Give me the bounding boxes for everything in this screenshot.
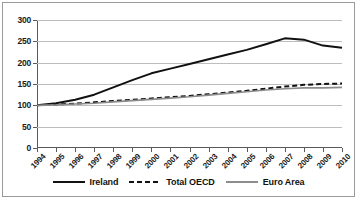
x-tick-mark (304, 148, 305, 152)
x-tick-mark (151, 148, 152, 152)
gridline (37, 84, 342, 85)
x-tick-mark (323, 148, 324, 152)
x-tick-mark (228, 148, 229, 152)
x-tick-mark (342, 148, 343, 152)
x-tick-mark (94, 148, 95, 152)
x-tick-mark (75, 148, 76, 152)
legend-label: Total OECD (166, 177, 214, 187)
legend-swatch-dashed-line-icon (129, 178, 161, 186)
x-axis-tick-label: 2010 (334, 152, 352, 170)
y-axis-tick-label: 250 (17, 36, 31, 46)
legend-swatch-solid-line-icon (53, 178, 85, 186)
x-tick-mark (132, 148, 133, 152)
chart-figure: 050100150200250300 199419951996199719981… (2, 2, 355, 197)
x-tick-mark (113, 148, 114, 152)
gridline (37, 63, 342, 64)
y-axis-tick-label: 300 (17, 15, 31, 25)
chart-legend: IrelandTotal OECDEuro Area (3, 177, 354, 187)
y-tick-mark (33, 20, 37, 21)
x-axis-tick-label: 1996 (67, 152, 85, 170)
legend-label: Ireland (90, 177, 119, 187)
legend-label: Euro Area (263, 177, 305, 187)
x-axis-tick-label: 1998 (105, 152, 123, 170)
x-axis-tick-label: 2009 (315, 152, 333, 170)
x-axis-tick-label: 2007 (277, 152, 295, 170)
x-axis-tick-label: 2002 (181, 152, 199, 170)
y-axis-tick-label: 200 (17, 58, 31, 68)
legend-item-ireland[interactable]: Ireland (53, 177, 119, 187)
x-axis-tick-label: 2001 (162, 152, 180, 170)
y-tick-mark (33, 84, 37, 85)
x-axis-tick-label: 2000 (143, 152, 161, 170)
y-tick-mark (33, 41, 37, 42)
x-tick-mark (37, 148, 38, 152)
x-tick-mark (56, 148, 57, 152)
x-tick-mark (247, 148, 248, 152)
y-axis-tick-label: 100 (17, 100, 31, 110)
x-axis-tick-label: 1995 (48, 152, 66, 170)
gridline (37, 105, 342, 106)
y-axis-tick-label: 0 (26, 143, 31, 153)
gridline (37, 20, 342, 21)
gridline (37, 41, 342, 42)
x-tick-mark (285, 148, 286, 152)
x-tick-mark (209, 148, 210, 152)
legend-swatch-solid-line-icon (226, 178, 258, 186)
x-axis-tick-label: 2008 (296, 152, 314, 170)
x-axis-tick-label: 1994 (29, 152, 47, 170)
y-axis-tick-label: 150 (17, 79, 31, 89)
y-axis-tick-label: 50 (22, 122, 31, 132)
x-tick-mark (190, 148, 191, 152)
legend-item-euro-area[interactable]: Euro Area (226, 177, 305, 187)
x-axis-tick-label: 1997 (86, 152, 104, 170)
legend-item-total-oecd[interactable]: Total OECD (129, 177, 214, 187)
x-axis-tick-label: 2006 (258, 152, 276, 170)
x-axis-tick-label: 1999 (124, 152, 142, 170)
x-axis-tick-label: 2003 (201, 152, 219, 170)
y-tick-mark (33, 127, 37, 128)
x-axis-tick-label: 2004 (220, 152, 238, 170)
x-tick-mark (266, 148, 267, 152)
plot-area: 050100150200250300 199419951996199719981… (37, 20, 342, 148)
x-axis-tick-label: 2005 (239, 152, 257, 170)
y-tick-mark (33, 63, 37, 64)
y-tick-mark (33, 105, 37, 106)
gridline (37, 127, 342, 128)
x-tick-mark (170, 148, 171, 152)
